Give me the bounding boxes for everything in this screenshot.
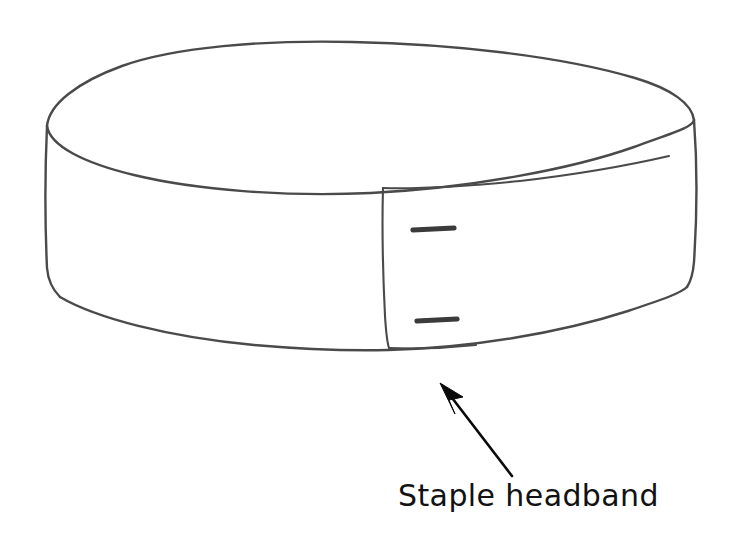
flap-left-fold-edge bbox=[383, 188, 389, 348]
flap-top-edge bbox=[383, 156, 669, 188]
lower-staple-mark bbox=[417, 319, 457, 321]
band-bottom-arc bbox=[60, 287, 687, 350]
illustration-canvas: Staple headband bbox=[0, 0, 731, 546]
top-rim-upper-arc bbox=[47, 42, 694, 126]
top-rim-lower-arc bbox=[47, 120, 694, 194]
band-right-edge bbox=[687, 120, 696, 287]
headband-drawing bbox=[0, 0, 731, 546]
callout-arrow-shaft bbox=[446, 390, 512, 476]
band-left-edge bbox=[46, 126, 61, 297]
callout-caption: Staple headband bbox=[398, 480, 659, 512]
upper-staple-mark bbox=[413, 228, 454, 230]
